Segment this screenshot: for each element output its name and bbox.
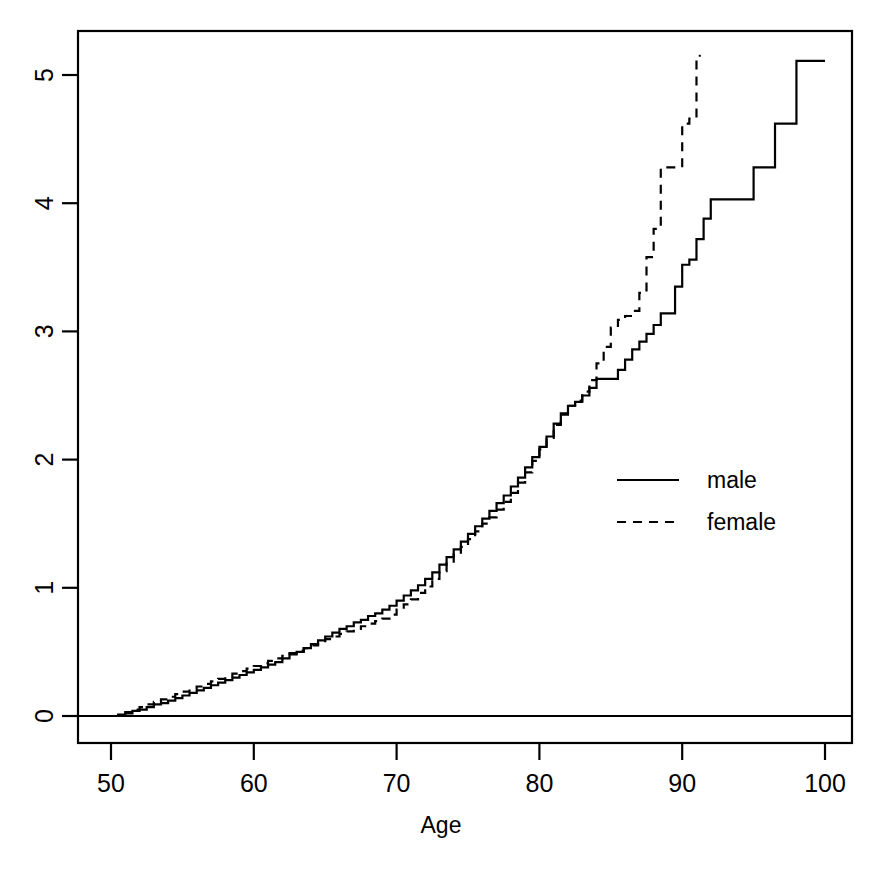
x-axis-title: Age [421, 812, 462, 838]
x-tick-label: 70 [383, 769, 411, 797]
x-tick-label: 80 [525, 769, 553, 797]
y-tick-label: 3 [30, 324, 58, 338]
y-tick-label: 5 [30, 68, 58, 82]
y-tick-label: 1 [30, 581, 58, 595]
x-tick-label: 60 [240, 769, 268, 797]
x-tick-label: 90 [668, 769, 696, 797]
y-tick-label: 0 [30, 709, 58, 723]
legend-label-female: female [707, 509, 776, 535]
figure-container: 012345 5060708090100 malefemale Age [0, 0, 882, 876]
legend-label-male: male [707, 467, 757, 493]
y-tick-label: 2 [30, 453, 58, 467]
chart-legend: malefemale [617, 467, 776, 535]
plot-frame [78, 31, 852, 743]
y-axis-ticks: 012345 [30, 68, 78, 723]
x-axis-ticks: 5060708090100 [97, 743, 846, 797]
x-tick-label: 50 [97, 769, 125, 797]
x-tick-label: 100 [804, 769, 846, 797]
y-tick-label: 4 [30, 196, 58, 210]
series-line-female [111, 56, 701, 716]
data-series-layer [111, 56, 825, 716]
series-line-male [111, 61, 825, 716]
plot-canvas: 012345 5060708090100 malefemale Age [0, 0, 882, 876]
